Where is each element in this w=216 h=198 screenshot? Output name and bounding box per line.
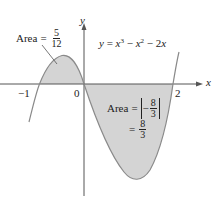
right-area-fraction: 8 3 (150, 98, 157, 119)
left-area-fraction: 5 12 (51, 28, 63, 49)
area-between-curve-figure: y x −1 0 2 y = x3 − x2 − 2x Area = 5 12 … (0, 0, 216, 198)
y-axis-label: y (80, 15, 85, 26)
right-area-result-fraction: 8 3 (139, 119, 146, 140)
x-tick-0: 0 (74, 88, 80, 99)
absolute-value-bars: − 8 3 (141, 98, 160, 119)
x-tick-neg1: −1 (18, 88, 30, 99)
right-area-label: Area = − 8 3 (107, 98, 160, 119)
x-axis-label: x (206, 77, 211, 88)
x-tick-2: 2 (175, 88, 181, 99)
x-axis-arrow-icon (196, 82, 203, 87)
function-label: y = x3 − x2 − 2x (99, 38, 166, 49)
left-area-label: Area = 5 12 (16, 28, 64, 49)
right-area-result: = 8 3 (129, 119, 147, 140)
